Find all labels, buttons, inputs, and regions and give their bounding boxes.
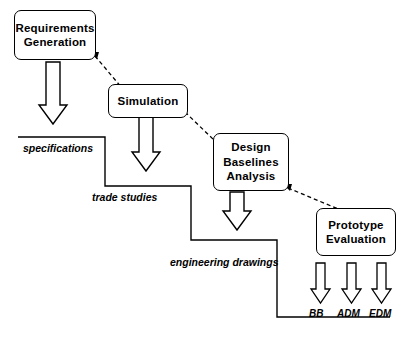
label-edm: EDM	[369, 308, 391, 319]
hollow-arrow-bb	[311, 263, 330, 303]
box-simulation-line-1: Simulation	[118, 94, 179, 108]
box-requirements-generation[interactable]: Requirements Generation	[14, 10, 96, 60]
label-bb: BB	[309, 308, 323, 319]
box-design-line-3: Analysis	[223, 169, 279, 183]
label-adm: ADM	[337, 308, 360, 319]
box-simulation[interactable]: Simulation	[108, 84, 188, 118]
hollow-arrow-simulation	[132, 117, 160, 171]
connector-simulation-design	[185, 112, 216, 142]
hollow-arrow-adm	[342, 263, 361, 303]
box-requirements-line-1: Requirements	[15, 21, 94, 35]
box-design-baselines-analysis[interactable]: Design Baselines Analysis	[213, 133, 289, 191]
box-design-line-2: Baselines	[223, 155, 279, 169]
label-trade-studies: trade studies	[92, 191, 157, 203]
label-specifications: specifications	[23, 142, 93, 154]
box-design-line-1: Design	[223, 140, 279, 154]
box-requirements-line-2: Generation	[15, 35, 94, 49]
hollow-arrow-requirements	[39, 62, 67, 124]
box-prototype-line-1: Prototype	[326, 218, 386, 232]
hollow-arrow-design	[223, 192, 251, 230]
waterfall-process-diagram: Requirements Generation Simulation Desig…	[0, 0, 413, 340]
box-prototype-evaluation[interactable]: Prototype Evaluation	[316, 208, 396, 256]
label-engineering-drawings: engineering drawings	[170, 256, 279, 268]
hollow-arrow-edm	[372, 263, 391, 303]
box-prototype-line-2: Evaluation	[326, 232, 386, 246]
